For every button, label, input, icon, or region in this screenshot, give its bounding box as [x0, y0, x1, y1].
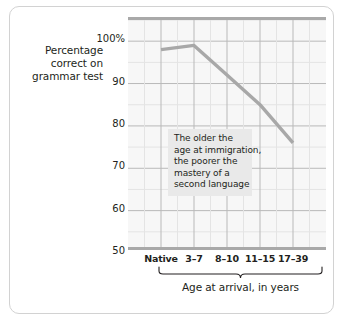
x-axis-tick-label: Native — [144, 253, 178, 264]
annotation-line-2: age at immigration, — [174, 145, 247, 157]
y-axis-tick-label: 60 — [112, 202, 125, 213]
annotation-line-1: The older the — [174, 133, 247, 145]
y-axis-title-line-1: Percentage — [18, 44, 103, 57]
y-axis-tick-label: 100% — [96, 33, 125, 44]
y-axis-tick-label: 50 — [112, 245, 125, 256]
y-axis-title-line-2: correct on — [18, 57, 103, 70]
y-axis-tick-label: 80 — [112, 117, 125, 128]
y-axis-tick-label: 70 — [112, 160, 125, 171]
figure-container: Percentage correct on grammar test 100%9… — [0, 0, 343, 321]
chart-annotation: The older the age at immigration, the po… — [168, 129, 252, 196]
x-axis-tick-label: 3–7 — [185, 253, 202, 264]
x-axis-tick-label: 11–15 — [245, 253, 275, 264]
x-axis-brace — [158, 266, 323, 279]
annotation-line-3: the poorer the — [174, 156, 247, 168]
x-axis-tick-label: 8–10 — [215, 253, 239, 264]
x-axis-tick-label: 17–39 — [278, 253, 308, 264]
y-axis-tick-label: 90 — [112, 75, 125, 86]
y-axis-tick-labels: 100%9080706050 — [92, 0, 125, 321]
annotation-line-4: mastery of a — [174, 168, 247, 180]
annotation-line-5: second language — [174, 179, 247, 191]
y-axis-title-line-3: grammar test — [18, 70, 103, 83]
y-axis-title: Percentage correct on grammar test — [18, 44, 103, 84]
x-axis-caption: Age at arrival, in years — [148, 281, 333, 293]
